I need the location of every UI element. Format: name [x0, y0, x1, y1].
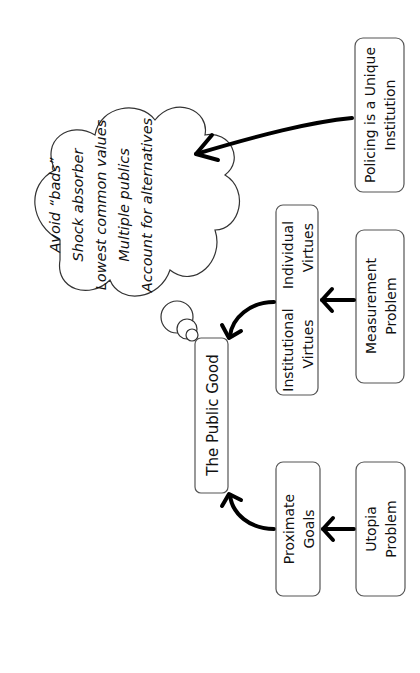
- node-utopia: Utopia Problem: [356, 462, 405, 596]
- node-proximate: Proximate Goals: [276, 462, 320, 596]
- thought-bubble: Avoid “bads” Shock absorber Lowest commo…: [35, 107, 240, 341]
- cloud-line-2: Shock absorber: [70, 148, 86, 262]
- node-policing: Policing is a Unique Institution: [355, 38, 404, 192]
- node-virtues: Individual Virtues Institutional Virtues: [276, 205, 318, 395]
- node-measurement-line-1: Measurement: [363, 257, 379, 354]
- node-public-good: The Public Good: [195, 338, 228, 493]
- node-policing-line-1: Policing is a Unique: [362, 47, 378, 183]
- node-utopia-line-1: Utopia: [363, 506, 379, 552]
- node-proximate-line-2: Goals: [301, 509, 317, 548]
- thought-dot-small: [186, 329, 198, 341]
- node-measurement: Measurement Problem: [356, 230, 404, 383]
- node-public-good-label: The Public Good: [204, 354, 222, 476]
- node-individual-line-2: Virtues: [300, 223, 316, 272]
- node-institutional-line-1: Institutional: [280, 308, 296, 391]
- cloud-line-4: Multiple publics: [116, 148, 132, 262]
- node-institutional-line-2: Virtues: [300, 319, 316, 368]
- cloud-shape: [35, 107, 240, 296]
- node-policing-line-2: Institution: [382, 80, 398, 151]
- node-proximate-line-1: Proximate: [281, 494, 297, 564]
- node-measurement-line-2: Problem: [383, 277, 399, 334]
- node-utopia-line-2: Problem: [383, 500, 399, 557]
- arrow-measurement-to-virtues: [322, 289, 354, 311]
- cloud-line-1: Avoid “bads”: [47, 157, 63, 254]
- node-individual-line-1: Individual: [280, 221, 296, 289]
- cloud-line-3: Lowest common values: [93, 119, 109, 290]
- arrow-virtues-to-public-good: [222, 302, 274, 338]
- cloud-line-5: Account for alternatives: [139, 117, 155, 293]
- arrow-proximate-to-public-good: [222, 494, 274, 529]
- arrow-utopia-to-proximate: [323, 518, 354, 540]
- diagram-canvas: Avoid “bads” Shock absorber Lowest commo…: [0, 0, 420, 673]
